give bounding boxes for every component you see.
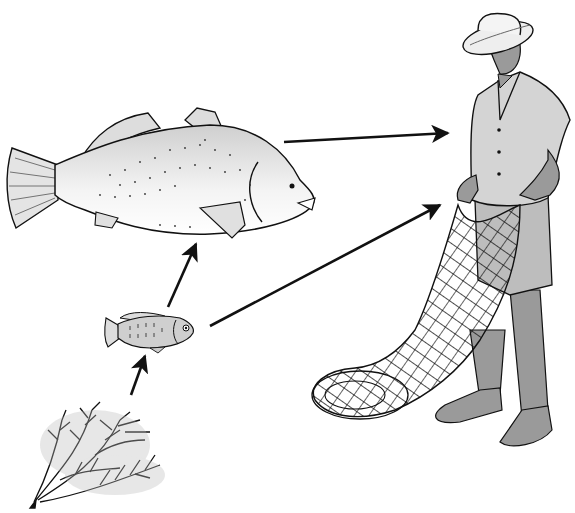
- food-chain-diagram: Seaweed (producer) Small fish Large fish…: [0, 0, 575, 513]
- seaweed-shadow: [40, 410, 165, 495]
- arrow-small-fish-to-large-fish: [168, 244, 196, 307]
- small-fish-illustration: [105, 313, 194, 354]
- large-fish-illustration: [7, 108, 315, 238]
- arrow-seaweed-to-small-fish: [131, 356, 145, 395]
- arrow-large-fish-to-fisherman: [284, 133, 448, 142]
